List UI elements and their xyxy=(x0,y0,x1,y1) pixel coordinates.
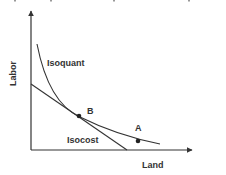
point-b xyxy=(77,114,82,119)
point-b-label: B xyxy=(87,106,94,116)
isocost-label: Isocost xyxy=(67,135,99,145)
point-a-label: A xyxy=(135,123,142,133)
cut-off-title xyxy=(14,0,190,2)
x-axis-label: Land xyxy=(142,160,164,170)
point-a xyxy=(136,139,141,144)
isoquant-isocost-diagram: Isoquant Isocost B A Land Labor xyxy=(0,0,226,175)
y-axis-label: Labor xyxy=(8,61,18,86)
isoquant-label: Isoquant xyxy=(47,58,85,68)
